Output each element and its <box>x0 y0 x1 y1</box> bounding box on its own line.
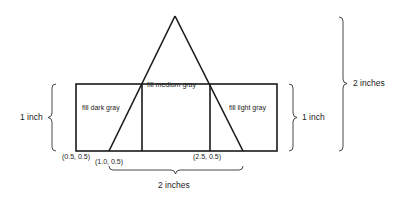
right-small-brace <box>289 84 297 151</box>
dimension-right-1-inch: 1 inch <box>302 112 325 122</box>
outer-rectangle <box>76 84 277 151</box>
dimension-left-1-inch: 1 inch <box>20 112 43 122</box>
right-large-brace <box>339 17 347 151</box>
point-label-0-5-0-5: (0.5, 0.5) <box>62 153 90 160</box>
label-fill-dark-gray: fill dark gray <box>82 104 120 111</box>
label-fill-light-gray: fill light gray <box>229 104 266 111</box>
bottom-brace <box>109 166 243 174</box>
diagram-canvas <box>0 0 406 199</box>
label-fill-medium-gray: fill medium gray <box>147 81 196 88</box>
point-label-1-0-0-5: (1.0, 0.5) <box>95 158 123 165</box>
left-brace <box>48 84 56 151</box>
dimension-2-inches-width: 2 inches <box>158 180 190 190</box>
dimension-2-inches-height: 2 inches <box>353 78 385 88</box>
point-label-2-5-0-5: (2.5, 0.5) <box>193 153 221 160</box>
